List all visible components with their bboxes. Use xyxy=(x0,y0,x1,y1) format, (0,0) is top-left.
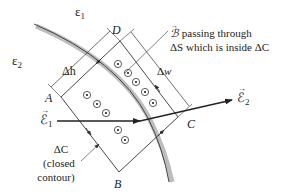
contour-arrow-bc xyxy=(158,130,164,136)
diagram-canvas: ε1 ε2 D A B C Δh Δw ℰ1 → ℰ2 → ℬ passing … xyxy=(0,0,283,192)
contour-label-line1: ΔC xyxy=(54,143,68,155)
b-annotation-line2: ΔS which is inside ΔC xyxy=(170,41,269,53)
flux-dot-marker xyxy=(93,100,100,107)
flux-dot-marker xyxy=(102,109,109,116)
flux-dot-marker xyxy=(83,91,90,98)
flux-dot-marker xyxy=(141,88,148,95)
flux-dot-marker xyxy=(114,60,121,67)
medium1-label: ε1 xyxy=(75,4,85,21)
flux-dot-marker xyxy=(114,126,121,133)
b-annotation-line1: ℬ passing through xyxy=(170,27,252,39)
corner-label-b: B xyxy=(114,177,122,191)
flux-dot-marker xyxy=(132,78,139,85)
corner-label-c: C xyxy=(187,117,196,131)
contour-annotation-leader xyxy=(81,144,99,161)
contour-arrow-ab xyxy=(86,128,91,135)
delta-w-ext-top xyxy=(120,29,134,41)
contour-label-line3: contour) xyxy=(37,171,75,184)
b-vector-mark: → xyxy=(171,22,178,30)
delta-w-label: Δw xyxy=(157,65,172,77)
contour-label-line2: (closed xyxy=(43,157,75,170)
corner-label-a: A xyxy=(44,91,53,105)
corner-label-d: D xyxy=(111,23,121,37)
medium2-label: ε2 xyxy=(12,53,22,70)
flux-dot-marker xyxy=(149,99,156,106)
e2-vector-mark: → xyxy=(238,84,246,93)
e1-vector-mark: → xyxy=(41,106,49,115)
flux-markers xyxy=(83,60,156,143)
delta-h-label: Δh xyxy=(62,64,76,78)
flux-dot-marker xyxy=(121,136,128,143)
